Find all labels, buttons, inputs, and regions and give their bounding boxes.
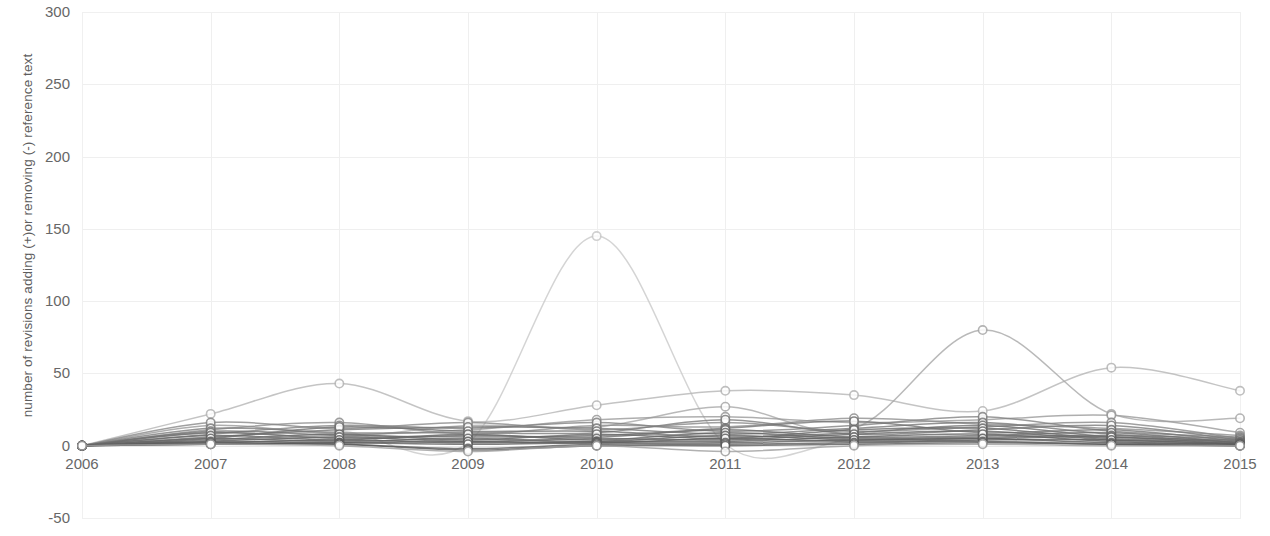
data-point-marker <box>721 415 729 423</box>
data-point-marker <box>850 391 858 399</box>
y-axis-tick-label: 0 <box>8 438 70 453</box>
y-axis-tick-label: 250 <box>8 76 70 91</box>
data-point-marker <box>721 387 729 395</box>
x-axis-tick-label: 2008 <box>299 456 379 471</box>
y-axis-tick-label: 150 <box>8 221 70 236</box>
x-axis-tick-label: 2009 <box>428 456 508 471</box>
x-axis-tick-label: 2012 <box>814 456 894 471</box>
y-axis-tick-label: 200 <box>8 149 70 164</box>
data-point-marker <box>1236 414 1244 422</box>
data-point-marker <box>850 417 858 425</box>
x-axis-tick-label: 2007 <box>171 456 251 471</box>
x-axis-tick-label: 2013 <box>943 456 1023 471</box>
x-axis-tick-label: 2011 <box>685 456 765 471</box>
x-axis-tick-label: 2006 <box>42 456 122 471</box>
data-point-marker <box>1107 442 1115 450</box>
data-point-marker <box>1107 363 1115 371</box>
x-axis-tick-label: 2010 <box>557 456 637 471</box>
data-point-marker <box>335 442 343 450</box>
x-axis-tick-label: 2014 <box>1071 456 1151 471</box>
data-point-marker <box>721 402 729 410</box>
data-point-marker <box>978 440 986 448</box>
y-axis-tick-label: 300 <box>8 4 70 19</box>
y-axis-tick-label: 50 <box>8 365 70 380</box>
data-point-marker <box>78 442 86 450</box>
data-point-marker <box>850 442 858 450</box>
data-point-marker <box>978 326 986 334</box>
y-axis-tick-label: 100 <box>8 293 70 308</box>
data-point-marker <box>592 232 600 240</box>
x-axis-tick-label: 2015 <box>1200 456 1270 471</box>
data-point-marker <box>592 401 600 409</box>
data-point-marker <box>206 440 214 448</box>
line-chart: number of revisions adding (+)or removin… <box>0 0 1270 536</box>
data-point-marker <box>1236 387 1244 395</box>
data-point-marker <box>206 410 214 418</box>
data-point-marker <box>592 442 600 450</box>
data-point-marker <box>1236 442 1244 450</box>
data-point-marker <box>335 379 343 387</box>
y-axis-tick-label: -50 <box>8 510 70 525</box>
